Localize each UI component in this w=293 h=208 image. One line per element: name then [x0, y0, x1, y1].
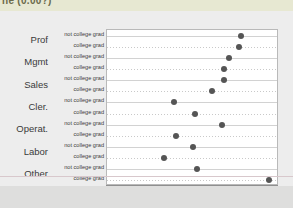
- plot-area: [106, 29, 278, 185]
- row-gridline: [107, 91, 277, 92]
- data-point: [192, 111, 198, 117]
- data-point: [226, 55, 232, 61]
- subgroup-label: college grad: [74, 87, 104, 93]
- group-label-operat: Operat.: [16, 123, 48, 134]
- group-label-prof: Prof: [31, 34, 48, 45]
- data-point: [238, 33, 244, 39]
- data-point: [190, 144, 196, 150]
- group-label-mgmt: Mgmt: [24, 56, 48, 67]
- data-point: [221, 77, 227, 83]
- data-point: [173, 133, 179, 139]
- group-label-other: Other: [24, 168, 48, 179]
- subgroup-label: not college grad: [64, 54, 104, 60]
- data-point: [219, 122, 225, 128]
- subgroup-label: college grad: [74, 154, 104, 160]
- page-hairline: [0, 176, 293, 177]
- row-gridline: [107, 47, 277, 48]
- subgroup-label: college grad: [74, 110, 104, 116]
- row-gridline: [107, 125, 277, 126]
- subgroup-label: college grad: [74, 132, 104, 138]
- figure-canvas: not college gradcollege gradnot college …: [0, 11, 293, 186]
- data-point: [171, 99, 177, 105]
- row-gridline: [107, 80, 277, 81]
- subgroup-label: college grad: [74, 176, 104, 182]
- data-point: [266, 177, 272, 183]
- row-gridline: [107, 169, 277, 170]
- data-point: [221, 66, 227, 72]
- group-label-cler: Cler.: [28, 101, 48, 112]
- subgroup-label: college grad: [74, 43, 104, 49]
- data-point: [236, 44, 242, 50]
- row-gridline: [107, 136, 277, 137]
- row-gridline: [107, 158, 277, 159]
- data-point: [209, 88, 215, 94]
- subgroup-label: not college grad: [64, 143, 104, 149]
- group-label-labor: Labor: [24, 146, 48, 157]
- group-label-sales: Sales: [24, 79, 48, 90]
- row-gridline: [107, 102, 277, 103]
- row-gridline: [107, 36, 277, 37]
- data-point: [194, 166, 200, 172]
- subgroup-label: not college grad: [64, 165, 104, 171]
- subgroup-label: not college grad: [64, 121, 104, 127]
- row-gridline: [107, 69, 277, 70]
- subgroup-label: not college grad: [64, 32, 104, 38]
- clipped-header-text: ne (0.00?): [2, 0, 52, 6]
- subgroup-label: college grad: [74, 65, 104, 71]
- row-gridline: [107, 58, 277, 59]
- bottom-band: [0, 186, 293, 208]
- row-gridline: [107, 180, 277, 181]
- clipped-header-band: ne (0.00?): [0, 0, 293, 11]
- category-labels: not college gradcollege gradnot college …: [0, 29, 106, 185]
- subgroup-label: not college grad: [64, 98, 104, 104]
- subgroup-label: not college grad: [64, 76, 104, 82]
- data-point: [161, 155, 167, 161]
